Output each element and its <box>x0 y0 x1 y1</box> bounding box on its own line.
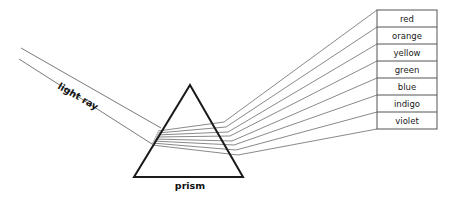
dispersed-ray-red-boundary <box>224 10 377 122</box>
spectrum-row-label-orange: orange <box>392 31 422 41</box>
dispersed-ray-yellow-green <box>230 61 377 136</box>
light-ray-label: light ray <box>56 80 101 112</box>
spectrum-row-label-yellow: yellow <box>393 48 420 58</box>
dispersed-ray-red-orange <box>226 27 377 127</box>
spectrum-row-label-blue: blue <box>398 82 416 92</box>
spectrum-row-label-red: red <box>400 14 414 24</box>
prism-diagram-canvas: red orange yellow green blue indigo viol… <box>0 0 450 202</box>
prism-label: prism <box>175 180 205 191</box>
dispersed-ray-violet-boundary <box>238 129 377 155</box>
spectrum-row-label-green: green <box>395 65 420 75</box>
dispersed-ray-blue-indigo <box>234 95 377 145</box>
prism-dispersion-diagram: red orange yellow green blue indigo viol… <box>0 0 450 202</box>
dispersed-spectrum-rays <box>224 10 377 155</box>
prism-triangle <box>134 85 243 177</box>
incoming-ray-upper-edge <box>21 48 161 128</box>
spectrum-row-label-violet: violet <box>395 116 419 126</box>
spectrum-color-table: red orange yellow green blue indigo viol… <box>377 10 437 129</box>
spectrum-row-label-indigo: indigo <box>394 99 420 109</box>
dispersed-ray-indigo-violet <box>236 112 377 150</box>
